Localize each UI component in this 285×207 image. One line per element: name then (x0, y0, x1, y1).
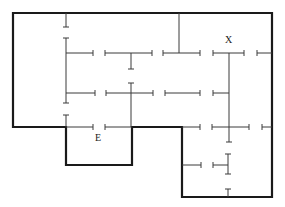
interior-partitions (63, 13, 272, 197)
label-e: E (95, 133, 101, 143)
outer-wall (13, 13, 272, 197)
maze-diagram (0, 0, 285, 207)
label-x: X (225, 35, 232, 45)
